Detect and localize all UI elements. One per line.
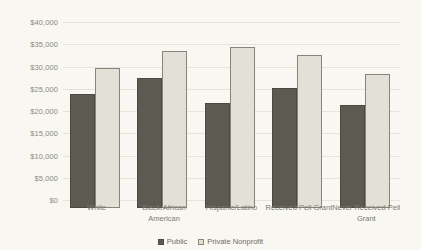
bar-group (63, 22, 130, 208)
legend-swatch-icon (198, 239, 204, 245)
bar-group (265, 22, 332, 208)
y-axis-tick-label: $35,000 (0, 40, 58, 49)
legend-label: Private Nonprofit (207, 237, 263, 246)
y-axis-tick-label: $10,000 (0, 151, 58, 160)
y-axis-tick-label: $15,000 (0, 129, 58, 138)
bar-public (340, 105, 365, 208)
y-axis-tick-label: $0 (0, 196, 58, 205)
legend-item[interactable]: Private Nonprofit (198, 237, 263, 246)
bar-private (162, 51, 187, 208)
bar-private (365, 74, 390, 208)
y-axis-tick-label: $5,000 (0, 173, 58, 182)
legend-item[interactable]: Public (158, 237, 187, 246)
y-axis-tick-label: $25,000 (0, 84, 58, 93)
x-axis-tick-label: Black/African American (127, 203, 201, 224)
x-axis-tick-label: Hispanic/Latino (195, 203, 269, 214)
bar-public (272, 88, 297, 208)
bar-group (198, 22, 265, 208)
chart-legend: PublicPrivate Nonprofit (0, 237, 421, 246)
bar-public (137, 78, 162, 208)
x-axis: WhiteBlack/African AmericanHispanic/Lati… (63, 203, 400, 237)
bar-group (333, 22, 400, 208)
bar-public (70, 94, 95, 208)
y-axis-tick-label: $20,000 (0, 107, 58, 116)
grouped-bar-chart: $40,000$35,000$30,000$25,000$20,000$15,0… (0, 0, 421, 250)
x-axis-tick-label: Never Received Pell Grant (329, 203, 403, 224)
y-axis-tick-label: $40,000 (0, 18, 58, 27)
y-axis-tick-label: $30,000 (0, 62, 58, 71)
x-axis-tick-label: Received Pell Grant (262, 203, 336, 214)
bar-group (130, 22, 197, 208)
bar-private (95, 68, 120, 208)
x-axis-tick-label: White (60, 203, 134, 214)
bar-private (297, 55, 322, 208)
bar-private (230, 47, 255, 208)
legend-label: Public (167, 237, 187, 246)
bar-public (205, 103, 230, 208)
bars-layer (63, 14, 400, 208)
y-axis: $40,000$35,000$30,000$25,000$20,000$15,0… (0, 14, 58, 208)
legend-swatch-icon (158, 239, 164, 245)
